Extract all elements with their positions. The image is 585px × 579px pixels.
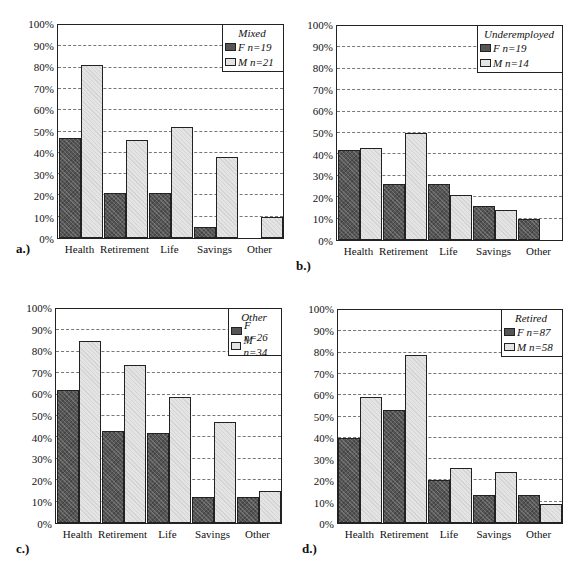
legend-label: F n=87 <box>517 326 550 338</box>
bar-male <box>450 468 472 523</box>
panel-label: c.) <box>16 541 29 557</box>
legend-entry: F n=19 <box>480 40 558 55</box>
bar-female <box>237 497 259 523</box>
y-tick-label: 70% <box>12 367 52 379</box>
bar-male <box>405 355 427 523</box>
y-tick-label: 60% <box>12 388 52 400</box>
y-tick-label: 50% <box>293 127 333 139</box>
gridline <box>338 394 562 395</box>
bar-female <box>149 193 171 238</box>
bar-female <box>338 150 360 240</box>
bar-female <box>518 219 540 240</box>
legend-title: Mixed <box>225 27 279 39</box>
y-tick-label: 60% <box>14 104 54 116</box>
legend-label: F n=19 <box>493 42 526 54</box>
panel-label: b.) <box>296 258 311 274</box>
bar-male <box>360 397 382 523</box>
bar-male <box>79 341 101 523</box>
bar-male <box>450 195 472 240</box>
y-tick-label: 80% <box>14 61 54 73</box>
y-tick-label: 10% <box>14 212 54 224</box>
y-tick-label: 80% <box>293 62 333 74</box>
bar-female <box>57 390 79 523</box>
gridline <box>338 373 562 374</box>
x-tick-label: Other <box>225 243 295 255</box>
y-tick-label: 30% <box>14 169 54 181</box>
y-tick-label: 100% <box>12 302 52 314</box>
legend-swatch-icon <box>231 342 241 350</box>
legend-title: Retired <box>504 312 558 324</box>
legend-swatch-icon <box>504 343 515 351</box>
x-tick-label: Other <box>223 528 293 540</box>
y-tick-label: 40% <box>294 432 334 444</box>
bar-female <box>428 184 450 240</box>
gridline <box>337 111 562 112</box>
bar-male <box>171 127 193 238</box>
y-tick-label: 20% <box>14 190 54 202</box>
bar-female <box>338 438 360 523</box>
bar-male <box>124 365 146 523</box>
y-tick-label: 70% <box>14 83 54 95</box>
bar-male <box>216 157 238 238</box>
legend: RetiredF n=87M n=58 <box>501 309 563 357</box>
bar-male <box>495 472 517 523</box>
bar-male <box>81 65 103 238</box>
y-tick-label: 20% <box>12 475 52 487</box>
legend-swatch-icon <box>504 328 515 336</box>
y-tick-label: 10% <box>12 496 52 508</box>
bar-female <box>102 431 124 523</box>
legend-entry: M n=14 <box>480 55 558 70</box>
y-tick-label: 10% <box>293 213 333 225</box>
y-tick-label: 50% <box>294 411 334 423</box>
legend-title: Underemployed <box>480 28 558 40</box>
bar-female <box>383 184 405 240</box>
y-tick-label: 90% <box>14 40 54 52</box>
bar-male <box>405 133 427 240</box>
bar-female <box>473 206 495 240</box>
legend-swatch-icon <box>231 327 242 335</box>
y-tick-label: 90% <box>294 325 334 337</box>
legend-label: M n=21 <box>238 56 274 68</box>
y-tick-label: 20% <box>293 192 333 204</box>
bar-male <box>540 504 562 523</box>
legend-swatch-icon <box>480 59 491 67</box>
y-tick-label: 90% <box>12 324 52 336</box>
legend: MixedF n=19M n=21 <box>222 24 284 72</box>
bar-female <box>147 433 169 523</box>
y-tick-label: 60% <box>293 105 333 117</box>
y-tick-label: 40% <box>12 432 52 444</box>
legend-swatch-icon <box>480 44 491 52</box>
x-tick-label: Other <box>504 245 574 257</box>
legend-entry: M n=34 <box>231 338 277 353</box>
bar-male <box>169 397 191 523</box>
y-tick-label: 100% <box>294 303 334 315</box>
legend-label: F n=19 <box>238 41 271 53</box>
legend-entry: M n=21 <box>225 54 279 69</box>
y-tick-label: 50% <box>14 126 54 138</box>
legend: OtherF n=26M n=34 <box>228 308 282 356</box>
legend-entry: M n=58 <box>504 339 558 354</box>
y-tick-label: 20% <box>294 475 334 487</box>
bar-male <box>495 210 517 240</box>
y-tick-label: 70% <box>293 84 333 96</box>
bar-female <box>518 495 540 523</box>
bar-female <box>428 480 450 523</box>
legend-label: M n=58 <box>517 341 553 353</box>
bar-female <box>104 193 126 238</box>
y-tick-label: 60% <box>294 389 334 401</box>
legend-label: M n=14 <box>493 57 529 69</box>
legend-swatch-icon <box>225 43 236 51</box>
y-tick-label: 80% <box>12 345 52 357</box>
bar-female <box>59 138 81 238</box>
legend-entry: F n=19 <box>225 39 279 54</box>
panel-label: d.) <box>302 541 317 557</box>
y-tick-label: 40% <box>14 147 54 159</box>
y-tick-label: 70% <box>294 368 334 380</box>
bar-male <box>261 217 283 238</box>
bar-female <box>194 227 216 238</box>
panel-label: a.) <box>16 241 30 257</box>
bar-female <box>192 497 214 523</box>
bar-female <box>473 495 495 523</box>
legend-swatch-icon <box>225 58 236 66</box>
legend-entry: F n=87 <box>504 324 558 339</box>
